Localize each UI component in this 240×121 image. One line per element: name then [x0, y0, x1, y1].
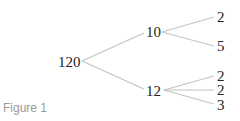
edge-10-5: [162, 32, 214, 46]
edge-120-12: [82, 61, 144, 89]
edge-120-10: [82, 33, 144, 61]
leaf-node: 3: [217, 97, 225, 113]
edge-12-2a: [164, 76, 214, 90]
leaf-node: 2: [217, 9, 225, 25]
factor-tree: 120 10 12 2 5 2 2 3 Figure 1: [0, 0, 240, 121]
leaf-node: 5: [217, 38, 225, 54]
node-10: 10: [146, 24, 161, 40]
edge-12-3: [164, 90, 214, 104]
leaf-node: 2: [217, 82, 225, 98]
node-12: 12: [146, 83, 161, 99]
root-node: 120: [58, 54, 81, 70]
figure-caption: Figure 1: [3, 101, 47, 115]
edge-10-2: [162, 17, 214, 32]
